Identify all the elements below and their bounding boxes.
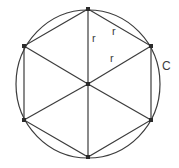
geometry-figure: r r r C (0, 0, 179, 168)
vertex-dot-lower-right (149, 118, 153, 122)
radius-line-upper-right (88, 46, 151, 84)
circumference-label: C (162, 60, 171, 72)
vertex-dot-top (86, 7, 90, 11)
radius-line-lower-right (88, 84, 151, 120)
vertex-dot-lower-left (22, 118, 26, 122)
vertex-dot-upper-left (22, 44, 26, 48)
radius-line-upper-left (24, 46, 88, 84)
vertex-dot-upper-right (149, 44, 153, 48)
radius-label-2: r (112, 26, 116, 37)
radius-label-1: r (92, 33, 96, 44)
radius-label-3: r (110, 53, 114, 64)
geometry-canvas (0, 0, 179, 168)
center-dot (86, 82, 90, 86)
radius-line-lower-left (24, 84, 88, 120)
vertex-dot-bottom (86, 155, 90, 159)
